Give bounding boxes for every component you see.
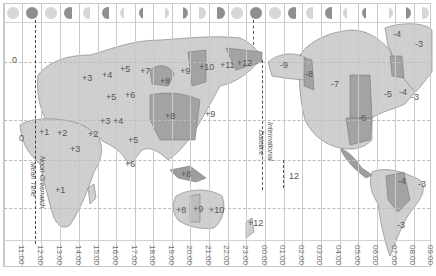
zone-offset-label: +9	[205, 109, 215, 119]
zone-offset-label: -4	[399, 87, 407, 97]
zone-offset-label: +3	[100, 116, 110, 126]
time-tick: 09:00	[413, 244, 435, 266]
column-divider	[79, 4, 80, 266]
zone-offset-label: +2	[88, 129, 98, 139]
zone-offset-label: -3	[415, 39, 423, 49]
column-divider	[209, 4, 210, 266]
moon-phase-icon	[120, 7, 132, 19]
dateline-box	[283, 160, 284, 188]
column-divider	[190, 4, 191, 266]
column-divider	[430, 4, 431, 266]
zone-offset-label: -7	[331, 79, 339, 89]
zone-offset-label: +7	[140, 66, 150, 76]
column-divider	[395, 4, 396, 266]
moon-phase-icon	[64, 7, 76, 19]
moon-phase-icon	[306, 7, 318, 19]
moon-phase-icon	[176, 7, 188, 19]
dateline-label: International	[266, 122, 274, 182]
zone-offset-label: +5	[106, 92, 116, 102]
column-divider	[340, 4, 341, 266]
zone-offset-label: +1	[39, 127, 49, 137]
column-divider	[4, 4, 5, 266]
column-divider	[153, 4, 154, 266]
zone-offset-label: 0	[12, 55, 17, 65]
moon-phase-icon	[250, 7, 262, 19]
column-divider	[116, 4, 117, 266]
moon-phase-icon	[213, 7, 225, 19]
zone-offset-label: -3	[418, 179, 426, 189]
zone-offset-label: +9	[180, 66, 190, 76]
zone-offset-label: +3	[70, 144, 80, 154]
moon-phase-icon	[381, 7, 393, 19]
dateline-segment	[253, 20, 254, 45]
moon-phase-icon	[7, 7, 19, 19]
moon-phase-icon	[26, 7, 38, 19]
greenwich-label-line2: Mean Time	[29, 162, 37, 222]
zone-offset-label: +3	[82, 73, 92, 83]
zone-offset-label: +4	[102, 70, 112, 80]
zone-offset-label: +8	[181, 169, 191, 179]
zone-offset-label: -8	[305, 69, 313, 79]
zone-offset-label: +10	[209, 205, 224, 215]
zone-offset-label: -3	[397, 220, 405, 230]
column-divider	[377, 4, 378, 266]
zone-offset-label: +8	[176, 205, 186, 215]
moon-phase-icon	[102, 7, 114, 19]
latitude-line	[4, 160, 430, 161]
greenwich-label: Noon Greenwich	[38, 156, 46, 228]
zone-offset-label: +8	[165, 111, 175, 121]
moon-phase-icon	[231, 7, 243, 19]
latitude-line	[4, 120, 430, 121]
zone-offset-label: +6	[125, 159, 135, 169]
zone-offset-label: +11	[220, 60, 235, 70]
column-divider	[302, 4, 303, 266]
zone-offset-label: +9	[193, 204, 203, 214]
column-divider	[246, 4, 247, 266]
zone-offset-label: +1	[55, 185, 65, 195]
moon-phase-icon	[343, 7, 355, 19]
column-divider	[284, 4, 285, 266]
column-divider	[172, 4, 173, 266]
zone-offset-label: +6	[125, 90, 135, 100]
moon-phase-icon	[194, 7, 206, 19]
time-zone-map: Noon Greenwich Mean Time International D…	[0, 0, 436, 276]
zone-offset-label: +2	[57, 128, 67, 138]
latitude-line	[4, 62, 430, 63]
zone-offset-label: 12	[289, 171, 299, 181]
land-masses	[0, 0, 436, 276]
zone-offset-label: -5	[384, 89, 392, 99]
column-divider	[321, 4, 322, 266]
moon-phase-icon	[399, 7, 411, 19]
moon-phase-icon	[269, 7, 281, 19]
moon-phase-icon	[288, 7, 300, 19]
moon-phase-icon	[417, 7, 429, 19]
dateline-label-line2: Dateline	[257, 130, 265, 180]
zone-offset-label: +12	[237, 58, 252, 68]
column-divider	[358, 4, 359, 266]
moon-phase-icon	[362, 7, 374, 19]
zone-offset-label: -9	[280, 60, 288, 70]
zone-offset-label: -6	[358, 113, 366, 123]
moon-phase-icon	[157, 7, 169, 19]
moon-phase-icon	[45, 7, 57, 19]
zone-offset-label: -4	[398, 176, 406, 186]
column-divider	[228, 4, 229, 266]
moon-phase-icon	[83, 7, 95, 19]
zone-offset-label: 0	[19, 133, 24, 143]
zone-offset-label: +8	[160, 76, 170, 86]
zone-offset-label: +12	[248, 218, 263, 228]
moon-phase-icon	[139, 7, 151, 19]
zone-offset-label: -3	[411, 92, 419, 102]
zone-offset-label: +4	[113, 116, 123, 126]
zone-offset-label: -4	[393, 29, 401, 39]
moon-phase-icon	[325, 7, 337, 19]
zone-offset-label: +5	[128, 135, 138, 145]
zone-offset-label: +5	[120, 64, 130, 74]
zone-offset-label: +10	[199, 62, 214, 72]
